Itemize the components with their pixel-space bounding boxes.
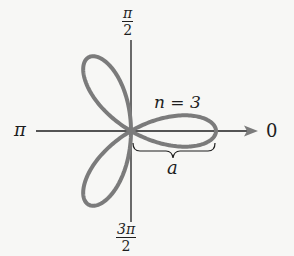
numerator: 3π	[116, 222, 136, 238]
denominator: 2	[123, 22, 132, 37]
horizontal-axis	[36, 126, 258, 137]
denominator: 2	[122, 238, 131, 253]
angle-label-pi: π	[14, 119, 26, 140]
n-equals-label: n = 3	[154, 92, 201, 112]
angle-label-3pi-over-2: 3π 2	[116, 222, 136, 253]
angle-label-0: 0	[266, 120, 277, 141]
polar-rose-diagram	[0, 0, 294, 256]
angle-label-pi-over-2: π 2	[122, 6, 133, 37]
numerator: π	[122, 6, 133, 22]
a-length-label: a	[167, 157, 178, 178]
